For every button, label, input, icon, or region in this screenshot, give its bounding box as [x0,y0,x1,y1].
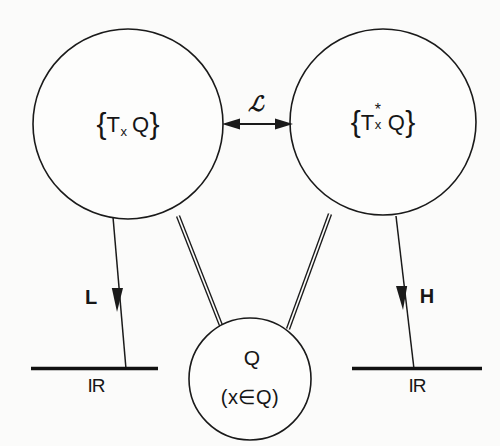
diagram-canvas: {TxQ} {T*xQ} ℒ L H IR IR Q (x∈Q) [0,0,500,446]
tangent-manifold-symbol: Q [127,112,150,137]
edge-cotangent-to-base [288,214,330,329]
tangent-space-label: {TxQ} [96,107,159,141]
configuration-space-circle [189,318,311,440]
lagrangian-map-label: L [85,286,97,309]
cotangent-sub-sup-cluster: *x [375,108,384,130]
tangent-open-brace: { [96,107,106,140]
tangent-close-brace: } [150,107,160,140]
legendre-transform-label: ℒ [247,91,265,116]
tangent-base-symbol: T [106,112,120,137]
cotangent-base-symbol: T [361,110,375,135]
cotangent-manifold-symbol: Q [384,110,406,135]
right-real-line-label: IR [409,375,426,397]
hamiltonian-map-label: H [420,285,434,308]
cotangent-space-label: {T*xQ} [351,105,416,139]
arrowhead-legendre-left [222,119,240,130]
cotangent-open-brace: { [351,105,361,138]
cotangent-close-brace: } [405,105,415,138]
edge-legendre-arrow [222,119,293,130]
configuration-space-membership: (x∈Q) [221,385,279,409]
configuration-space-label: Q [244,346,260,370]
edge-lagrangian [112,217,126,369]
cotangent-subscript: x [375,117,382,132]
edge-tangent-to-base [178,216,222,328]
left-real-line-label: IR [88,375,105,397]
edge-hamiltonian [396,216,414,369]
